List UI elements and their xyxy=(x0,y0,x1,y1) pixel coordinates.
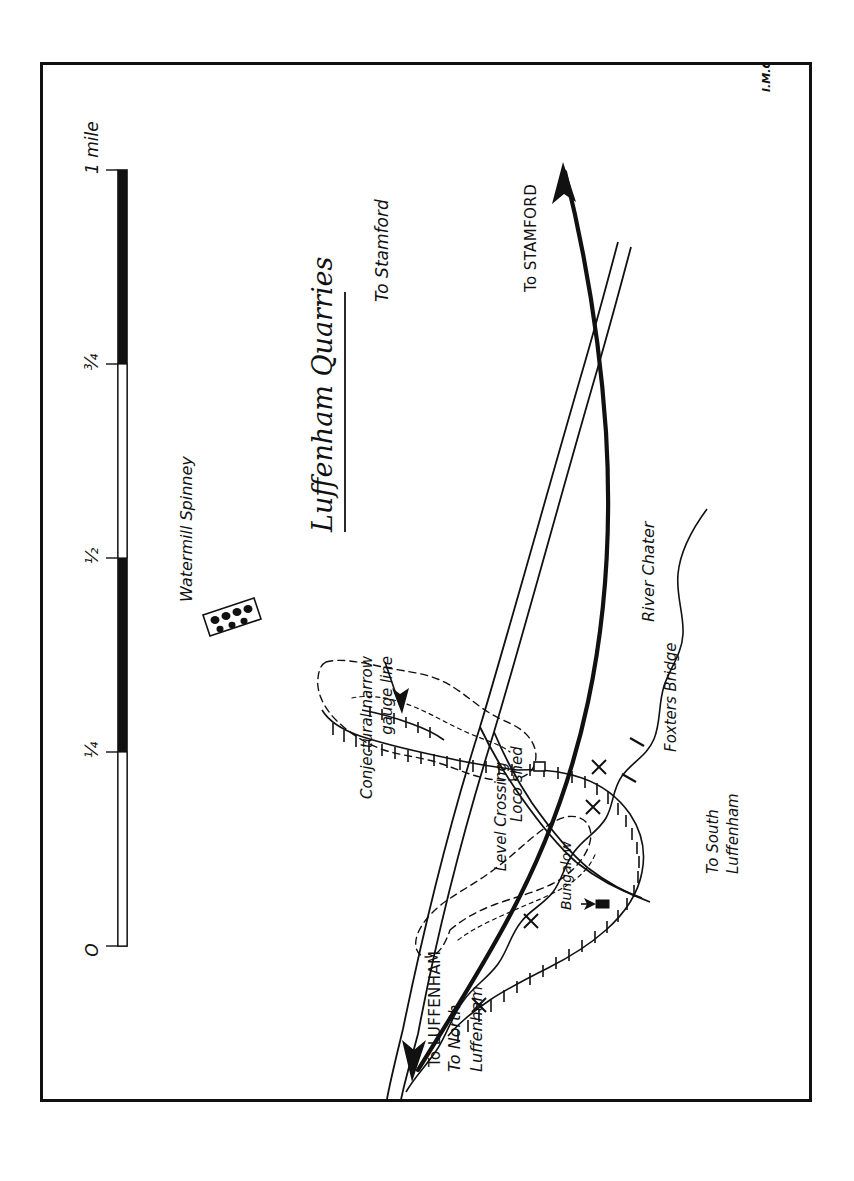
to-north-luffenham-label-2: Luffenham xyxy=(467,986,486,1072)
map-title-text: Luffenham Quarries xyxy=(307,257,338,533)
conjectural-line-annotation: Conjectural narrow gauge line xyxy=(358,655,409,799)
road-nluff-edge-a xyxy=(387,1029,403,1099)
road-direction-labels: To Stamford To North Luffenham To South … xyxy=(372,199,742,1072)
spinney-tree-3 xyxy=(233,608,242,616)
scale-label-quarter: ¼ xyxy=(82,741,102,758)
bungalow: Bungalow xyxy=(558,841,609,910)
bridge-mark-lower xyxy=(622,774,636,782)
loco-shed: Loco shed xyxy=(508,746,545,822)
road-sluff-cont-a xyxy=(576,862,642,898)
road-to-stamford xyxy=(403,242,631,1034)
quarry-inner-south xyxy=(458,852,596,940)
signature-text: I.M.C. xyxy=(760,62,773,92)
loco-shed-building xyxy=(534,762,545,771)
to-stamford-road-label: To Stamford xyxy=(372,199,392,302)
to-north-luffenham-label-1: To North xyxy=(445,1005,464,1072)
scale-bar: 1 mile ¾ ½ ¼ O xyxy=(82,121,127,956)
railway-arrow-stamford xyxy=(552,162,576,204)
scale-label-1mile: 1 mile xyxy=(82,121,102,174)
tramway-north-branch xyxy=(322,710,518,770)
watermill-spinney: Watermill Spinney xyxy=(177,456,261,636)
map-page: I.M.C. 1 mile ¾ ½ ¼ O Luf xyxy=(0,0,854,1181)
bungalow-label: Bungalow xyxy=(558,841,574,910)
spinney-tree-1 xyxy=(211,616,220,624)
scale-seg-4 xyxy=(118,170,127,364)
map-drawing: I.M.C. 1 mile ¾ ½ ¼ O Luf xyxy=(40,62,812,1102)
scale-seg-2 xyxy=(118,558,127,752)
scale-label-half: ½ xyxy=(82,547,102,564)
spinney-tree-4 xyxy=(244,605,253,613)
map-title: Luffenham Quarries xyxy=(307,257,345,533)
to-south-luffenham-label-1: To South xyxy=(704,809,722,874)
conjectural-line-label-2: gauge line xyxy=(378,656,396,735)
spinney-outline xyxy=(203,598,261,636)
to-stamford-rail-label: To STAMFORD xyxy=(522,184,540,293)
river-chater-course xyxy=(406,509,707,1092)
scale-seg-1 xyxy=(118,752,127,946)
to-luffenham-rail-label: To LUFFENHAM xyxy=(426,951,444,1068)
bungalow-building xyxy=(596,900,609,908)
scale-label-threequarter: ¾ xyxy=(82,353,102,370)
spinney-tree-6 xyxy=(229,622,236,628)
signature: I.M.C. xyxy=(760,62,773,92)
foxters-bridge-label: Foxters Bridge xyxy=(662,643,680,752)
main-railway: To STAMFORD To LUFFENHAM xyxy=(402,162,608,1082)
conjectural-line-label-1: Conjectural narrow xyxy=(358,655,376,799)
spinney-tree-2 xyxy=(222,612,231,620)
scale-seg-3 xyxy=(118,364,127,558)
scale-label-zero: O xyxy=(82,943,102,956)
river-chater: River Chater xyxy=(406,509,707,1092)
loco-shed-label: Loco shed xyxy=(508,746,526,822)
spinney-tree-7 xyxy=(241,618,248,624)
to-south-luffenham-label-2: Luffenham xyxy=(724,793,742,874)
bridge-mark-upper xyxy=(630,738,644,746)
river-chater-label: River Chater xyxy=(639,520,658,622)
spinney-tree-5 xyxy=(217,626,224,632)
watermill-spinney-label: Watermill Spinney xyxy=(177,456,196,602)
